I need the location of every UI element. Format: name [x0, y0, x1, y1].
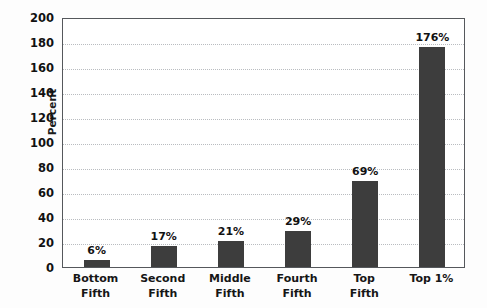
y-axis-tick-label: 0	[0, 263, 58, 274]
y-axis-tick-label: 120	[0, 113, 58, 124]
x-axis-category-label: SecondFifth	[129, 272, 196, 301]
y-axis-tick-label: 20	[0, 238, 58, 249]
y-axis-tick-label: 40	[0, 213, 58, 224]
x-axis-label-line: Fifth	[331, 287, 398, 302]
y-axis-tick-label: 200	[0, 13, 58, 24]
bars: 6%17%21%29%69%176%	[63, 19, 464, 267]
x-axis-label-line: Bottom	[62, 272, 129, 287]
bar-group: 21%	[197, 19, 264, 267]
x-axis-category-labels: BottomFifthSecondFifthMiddleFifthFourthF…	[62, 272, 465, 308]
bar-group: 69%	[332, 19, 399, 267]
y-axis-tick-label: 160	[0, 63, 58, 74]
bar-group: 176%	[399, 19, 466, 267]
plot-area: 6%17%21%29%69%176%	[62, 18, 465, 268]
bar[interactable]	[419, 47, 445, 267]
bar-value-label: 17%	[134, 230, 194, 243]
bar-value-label: 176%	[402, 31, 462, 44]
bar-chart: Percent 020406080100120140160180200 6%17…	[0, 0, 487, 308]
bar-value-label: 6%	[67, 244, 127, 257]
bar[interactable]	[285, 231, 311, 267]
x-axis-label-line: Fifth	[129, 287, 196, 302]
x-axis-label-line: Fourth	[264, 272, 331, 287]
bar-value-label: 29%	[268, 215, 328, 228]
y-axis-tick-label: 100	[0, 138, 58, 149]
bar-value-label: 69%	[335, 165, 395, 178]
x-axis-category-label: MiddleFifth	[196, 272, 263, 301]
x-axis-label-line: Fifth	[196, 287, 263, 302]
x-axis-category-label: Top 1%	[398, 272, 465, 287]
bar-group: 17%	[130, 19, 197, 267]
bar-value-label: 21%	[201, 225, 261, 238]
x-axis-label-line: Fifth	[264, 287, 331, 302]
x-axis-label-line: Fifth	[62, 287, 129, 302]
y-axis-tick-label: 180	[0, 38, 58, 49]
y-axis-tick-label: 140	[0, 88, 58, 99]
bar[interactable]	[218, 241, 244, 267]
bar[interactable]	[84, 260, 110, 268]
x-axis-label-line: Middle	[196, 272, 263, 287]
x-axis-category-label: BottomFifth	[62, 272, 129, 301]
bar[interactable]	[151, 246, 177, 267]
x-axis-label-line: Top	[331, 272, 398, 287]
x-axis-label-line: Second	[129, 272, 196, 287]
y-axis-tick-label: 80	[0, 163, 58, 174]
bar-group: 6%	[63, 19, 130, 267]
x-axis-label-line: Top 1%	[398, 272, 465, 287]
bar[interactable]	[352, 181, 378, 267]
bar-group: 29%	[265, 19, 332, 267]
y-axis-tick-label: 60	[0, 188, 58, 199]
x-axis-category-label: FourthFifth	[264, 272, 331, 301]
y-axis-tick-labels: 020406080100120140160180200	[0, 18, 58, 268]
x-axis-category-label: TopFifth	[331, 272, 398, 301]
